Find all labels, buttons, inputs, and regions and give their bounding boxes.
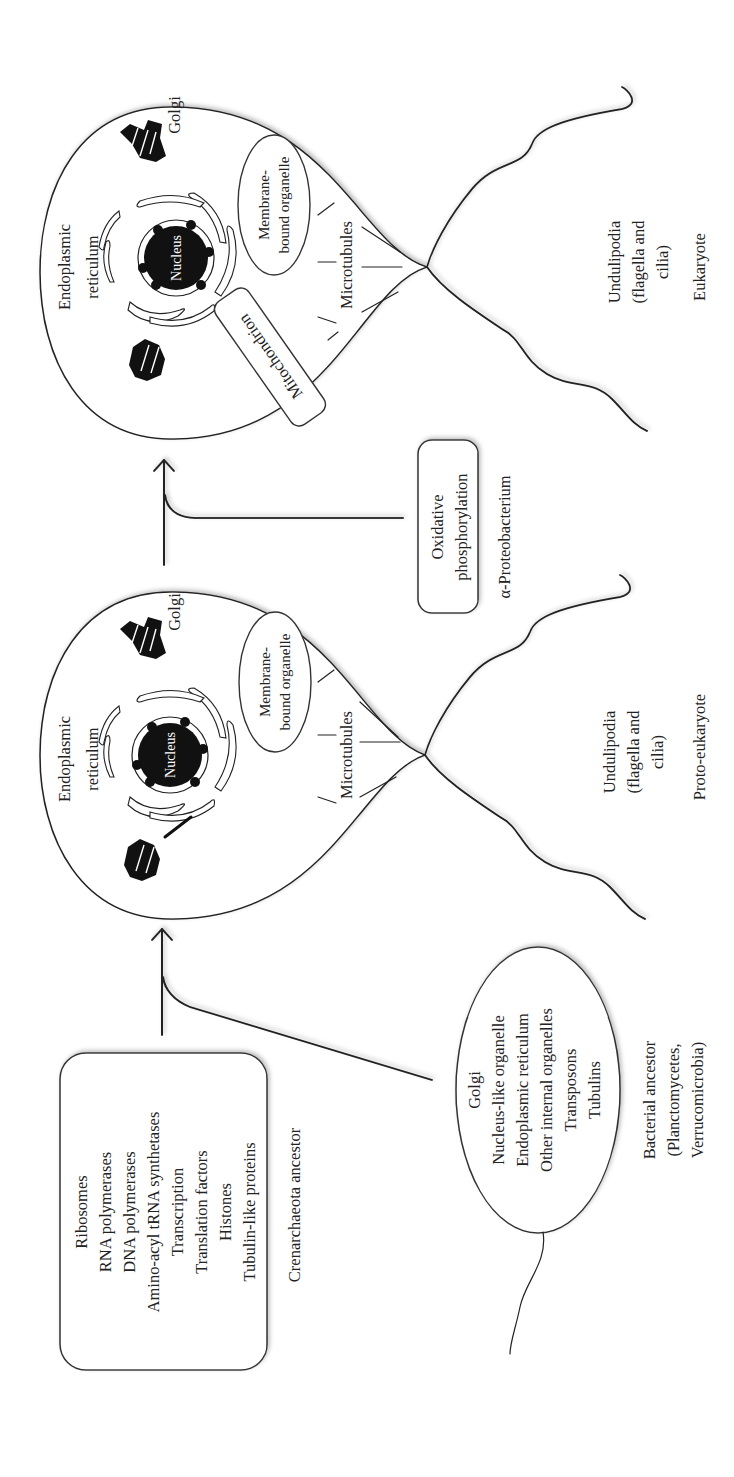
svg-text:reticulum: reticulum [83,727,102,790]
proto-eukaryote-cell: Nucleus Golgi Endoplasmic reticulum Memb… [40,575,709,919]
svg-text:Microtubules: Microtubules [337,711,356,799]
feature-item: Golgi [465,1071,484,1109]
crenarchaeota-feature-box [60,1053,267,1370]
svg-text:Microtubules: Microtubules [337,221,356,309]
undulipodia-label: Undulipodia (flagella and cilia) [600,710,667,794]
svg-text:(flagella and: (flagella and [629,220,648,304]
crenarchaeota-label: Crenarchaeota ancestor [285,1127,304,1282]
svg-text:Membrane-: Membrane- [257,647,273,717]
svg-text:reticulum: reticulum [83,235,102,298]
evolution-diagram: Ribosomes RNA polymerases DNA polymerase… [0,0,734,1477]
svg-text:Endoplasmic: Endoplasmic [55,716,74,802]
svg-text:bound organelle: bound organelle [276,156,292,253]
svg-text:cilia): cilia) [648,735,667,769]
nucleus-icon: Nucleus [138,220,214,296]
proto-eukaryote-label: Proto-eukaryote [690,694,709,800]
svg-text:Bacterial ancestor: Bacterial ancestor [640,1040,659,1159]
golgi-label: Golgi [165,593,184,631]
svg-text:Undulipodia: Undulipodia [600,710,619,793]
nucleus-label: Nucleus [163,732,178,778]
oxidative-line: phosphorylation [452,473,471,580]
nucleus-label: Nucleus [169,235,184,281]
feature-item: DNA polymerases [120,1151,139,1272]
feature-item: Transposons [561,1049,580,1132]
svg-text:Undulipodia: Undulipodia [605,220,624,303]
feature-item: Histones [216,1183,235,1241]
bacterial-label: Bacterial ancestor (Planctomycetes, Verr… [640,1040,707,1159]
svg-text:cilia): cilia) [653,245,672,279]
feature-item: RNA polymerases [96,1152,115,1273]
feature-item: Transcription [168,1168,187,1256]
svg-text:(Planctomycetes,: (Planctomycetes, [664,1043,683,1156]
svg-text:Verrucomicrobia): Verrucomicrobia) [688,1042,707,1158]
oxidative-line: Oxidative [428,494,447,559]
membrane-bound-organelle: Membrane- bound organelle [238,135,310,275]
feature-item: Other internal organelles [537,1008,556,1172]
alpha-proteobacterium-label: α-Proteobacterium [495,475,514,598]
feature-item: Tubulin-like proteins [240,1142,259,1281]
golgi-label: Golgi [165,96,184,134]
svg-text:bound organelle: bound organelle [277,633,293,730]
feature-item: Nucleus-like organelle [489,1015,508,1165]
nucleus-icon: Nucleus [132,717,208,793]
svg-text:Endoplasmic: Endoplasmic [55,224,74,310]
feature-item: Tubulins [585,1061,604,1119]
svg-text:Membrane-: Membrane- [256,170,272,240]
bacterial-flagellum [510,1232,544,1354]
eukaryote-cell: Nucleus Golgi Endoplasmic reticulum Memb… [40,87,709,439]
feature-item: Translation factors [192,1150,211,1274]
feature-item: Endoplasmic reticulum [513,1013,532,1167]
arrow-to-eukaryote [154,460,403,565]
svg-text:(flagella and: (flagella and [624,710,643,794]
feature-item: Ribosomes [72,1175,91,1248]
eukaryote-label: Eukaryote [690,233,709,301]
membrane-bound-organelle: Membrane- bound organelle [239,612,311,752]
undulipodia-label: Undulipodia (flagella and cilia) [605,220,672,304]
feature-item: Amino-acyl tRNA synthetases [144,1112,163,1313]
